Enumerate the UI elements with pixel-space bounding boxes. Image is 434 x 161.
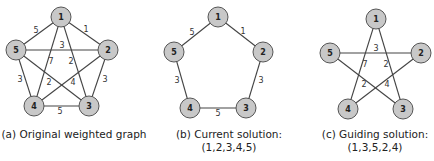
edge-weight-label: 3 xyxy=(102,75,107,84)
node-label: 2 xyxy=(418,49,424,58)
node-label: 2 xyxy=(105,46,111,55)
edge-weight-label: 4 xyxy=(70,78,75,87)
edge-weight-label: 2 xyxy=(361,80,366,89)
edge-weight-label: 7 xyxy=(48,57,53,66)
caption-a-line1: (a) Original weighted graph xyxy=(0,128,148,141)
edge-weight-label: 5 xyxy=(57,107,62,116)
node-label: 4 xyxy=(345,105,351,114)
caption-a: (a) Original weighted graph xyxy=(0,128,148,141)
edge-weight-label: 3 xyxy=(373,44,378,53)
edge-weight-label: 2 xyxy=(383,60,388,69)
caption-b-line1: (b) Current solution: xyxy=(170,128,288,141)
node-label: 4 xyxy=(187,104,193,113)
edge-weight-label: 3 xyxy=(59,41,64,50)
node-label: 3 xyxy=(86,102,92,111)
caption-c: (c) Guiding solution: (1,3,5,2,4) xyxy=(296,128,434,154)
node-label: 3 xyxy=(243,104,249,113)
edge-weight-label: 3 xyxy=(174,76,179,85)
node-label: 5 xyxy=(171,48,177,57)
graph-panel-b: 1353512345 xyxy=(164,7,273,118)
edge-weight-label: 5 xyxy=(33,26,38,35)
caption-b-line2: (1,2,3,4,5) xyxy=(170,141,288,154)
edge-weight-label: 1 xyxy=(240,27,245,36)
edge-weight-label: 1 xyxy=(83,25,88,34)
caption-c-line2: (1,3,5,2,4) xyxy=(316,141,434,154)
graph-panel-c: 2234712345 xyxy=(320,9,431,119)
edge-weight-label: 5 xyxy=(189,28,194,37)
node-label: 3 xyxy=(400,105,406,114)
edge-1-3 xyxy=(376,19,403,109)
edge-weight-label: 4 xyxy=(384,80,389,89)
node-label: 4 xyxy=(31,102,37,111)
edge-weight-label: 3 xyxy=(17,75,22,84)
node-label: 1 xyxy=(58,13,64,22)
edge-weight-label: 2 xyxy=(46,78,51,87)
node-label: 1 xyxy=(215,13,221,22)
caption-c-line1: (c) Guiding solution: xyxy=(316,128,434,141)
node-label: 1 xyxy=(373,15,379,24)
edge-weight-label: 2 xyxy=(68,57,73,66)
graph-panel-a: 153722433512345 xyxy=(6,7,118,116)
node-label: 2 xyxy=(260,48,266,57)
node-label: 5 xyxy=(13,46,19,55)
node-label: 5 xyxy=(327,49,333,58)
edge-weight-label: 7 xyxy=(362,60,367,69)
caption-b: (b) Current solution: (1,2,3,4,5) xyxy=(148,128,288,154)
edge-weight-label: 3 xyxy=(258,76,263,85)
edge-weight-label: 5 xyxy=(215,109,220,118)
